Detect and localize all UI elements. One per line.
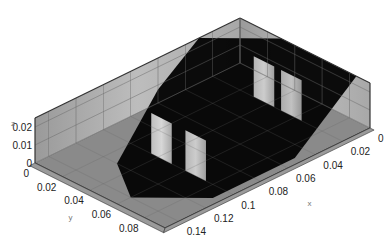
z-tick-label: 0.01 [13, 140, 33, 151]
y-tick-label: 0.04 [64, 195, 84, 206]
x-tick-label: 0.06 [296, 173, 316, 184]
y-axis-label: y [69, 213, 73, 222]
x-tick-label: 0.14 [187, 226, 207, 237]
x-tick-label: 0 [378, 133, 384, 144]
x-tick-label: 0.02 [351, 146, 371, 157]
x-tick-label: 0.04 [323, 160, 343, 171]
y-tick-label: 0 [23, 168, 29, 179]
y-tick-label: 0.06 [92, 209, 112, 220]
z-axis-label: z [11, 119, 15, 128]
z-tick-label: 0.02 [13, 122, 33, 133]
z-tick-label: 0 [26, 158, 32, 169]
x-tick-label: 0.12 [214, 213, 234, 224]
x-axis-label: x [308, 199, 312, 208]
y-tick-label: 0.08 [119, 223, 139, 234]
3d-volume-plot: 00.020.040.060.080.10.120.1400.020.040.0… [0, 0, 389, 244]
x-tick-label: 0.1 [241, 200, 255, 211]
y-tick-label: 0.02 [37, 182, 57, 193]
x-tick-label: 0.08 [269, 186, 289, 197]
